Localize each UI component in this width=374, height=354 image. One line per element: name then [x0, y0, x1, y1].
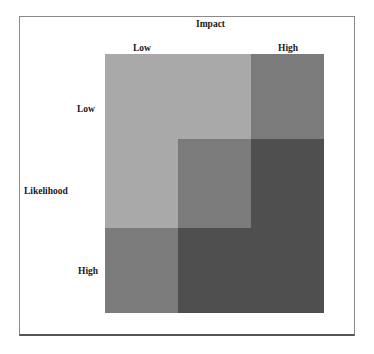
risk-cell-low-risk [178, 54, 251, 139]
risk-cell-low-risk [105, 139, 178, 228]
impact-low-label: Low [133, 43, 151, 53]
risk-cell-medium-risk [105, 228, 178, 313]
risk-cell-low-risk [105, 54, 178, 139]
likelihood-high-label: High [78, 266, 98, 276]
impact-axis-title: Impact [196, 19, 225, 29]
risk-cell-medium-risk [178, 139, 251, 228]
likelihood-axis-title: Likelihood [24, 186, 68, 196]
risk-cell-high-risk [251, 139, 324, 228]
impact-high-label: High [278, 43, 298, 53]
risk-cell-medium-risk [251, 54, 324, 139]
risk-cell-high-risk [178, 228, 251, 313]
risk-cell-high-risk [251, 228, 324, 313]
likelihood-low-label: Low [77, 104, 95, 114]
